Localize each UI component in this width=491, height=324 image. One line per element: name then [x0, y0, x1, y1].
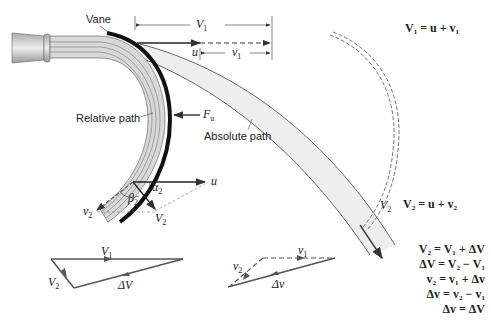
outlet-V2-label: V2 [155, 211, 166, 227]
nozzle [12, 33, 50, 63]
equation-item: Δv = ΔV [395, 302, 485, 317]
equation-list: V₂ = V₁ + ΔV ΔV = V₂ − V₁ v₂ = v₁ + Δv Δ… [395, 242, 485, 317]
equation-V2: V₂ = u + v₂ [403, 197, 457, 212]
u-label: u [192, 45, 198, 60]
absolute-path-band [140, 44, 395, 258]
outlet-u-label: u [211, 174, 217, 189]
equation-item: V₂ = V₁ + ΔV [395, 242, 485, 257]
triangle1-V1-label: V1 [101, 244, 112, 260]
absolute-path-label: Absolute path [204, 130, 271, 142]
v1-dimension-label: v1 [232, 45, 241, 61]
relative-path-label: Relative path [76, 112, 140, 124]
triangle2-v1-label: v1 [298, 243, 307, 259]
vane-label: Vane [86, 13, 111, 25]
absolute-velocity-triangle [51, 256, 183, 288]
equation-item: ΔV = V₂ − V₁ [395, 257, 485, 272]
V1-dimension-label: V1 [196, 17, 207, 33]
vane-leader [100, 26, 108, 32]
force-label: Fu [203, 107, 214, 123]
equation-item: v₂ = v₁ + Δv [395, 272, 485, 287]
equation-V1: V₁ = u + v₁ [405, 21, 459, 36]
outlet-v2-label: v2 [83, 204, 92, 220]
triangle2-v2-label: v2 [233, 259, 242, 275]
equation-item: Δv = v₂ − v₁ [395, 287, 485, 302]
absolute-V2-label: V2 [380, 198, 391, 214]
alpha2-label: α2 [152, 180, 162, 196]
triangle1-deltaV-label: ΔV [118, 278, 132, 293]
triangle1-V2-label: V2 [48, 275, 59, 291]
triangle2-deltav-label: Δv [272, 277, 284, 292]
beta2-label: β2 [128, 191, 138, 207]
